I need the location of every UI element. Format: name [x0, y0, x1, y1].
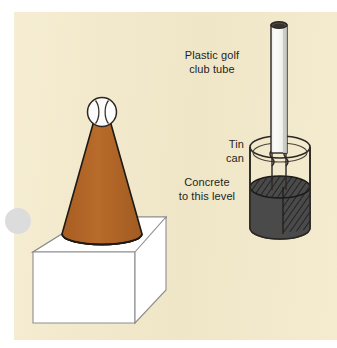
- label-concrete-level: Concrete to this level: [170, 176, 244, 203]
- baseball-shape: [88, 98, 117, 127]
- plastic-golf-club-tube-shape: [271, 22, 287, 153]
- label-tin-can: Tin can: [196, 138, 244, 165]
- label-plastic-golf-club-tube: Plastic golf club tube: [176, 49, 248, 76]
- cone-shape: [62, 117, 142, 246]
- concrete-fill-shape: [250, 176, 310, 239]
- diagram-artwork: [0, 0, 337, 348]
- figure-canvas: Plastic golf club tube Tin can Concrete …: [0, 0, 337, 348]
